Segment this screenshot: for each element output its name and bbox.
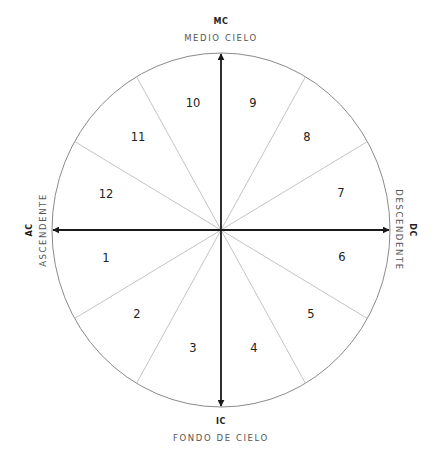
house-number-12: 12 bbox=[99, 187, 114, 201]
ic-abbr-label: IC bbox=[216, 417, 226, 426]
ac-abbr-label: AC bbox=[25, 223, 34, 236]
divider-line bbox=[137, 230, 222, 383]
divider-line bbox=[75, 142, 221, 231]
house-number-8: 8 bbox=[303, 130, 310, 144]
house-number-3: 3 bbox=[189, 341, 196, 355]
house-number-6: 6 bbox=[338, 250, 345, 264]
main-axes bbox=[53, 54, 389, 406]
divider-line bbox=[221, 230, 367, 319]
house-number-11: 11 bbox=[131, 130, 146, 144]
house-number-7: 7 bbox=[337, 186, 344, 200]
divider-line bbox=[221, 142, 367, 231]
house-numbers: 1 2 3 4 5 6 7 8 9 10 11 12 bbox=[99, 96, 346, 355]
divider-line bbox=[75, 230, 221, 319]
house-number-10: 10 bbox=[186, 96, 201, 110]
house-number-2: 2 bbox=[133, 307, 140, 321]
divider-line bbox=[221, 77, 306, 230]
house-number-5: 5 bbox=[307, 307, 314, 321]
house-number-1: 1 bbox=[102, 251, 109, 265]
mc-abbr-label: MC bbox=[214, 17, 229, 26]
house-number-9: 9 bbox=[249, 96, 256, 110]
divider-line bbox=[137, 77, 222, 230]
dc-name-label: DESCENDENTE bbox=[394, 189, 404, 270]
house-number-4: 4 bbox=[250, 341, 257, 355]
ac-name-label: ASCENDENTE bbox=[38, 193, 48, 267]
house-wheel-diagram: MC MEDIO CIELO IC FONDO DE CIELO AC ASCE… bbox=[0, 0, 443, 461]
dc-abbr-label: DC bbox=[408, 223, 417, 237]
mc-name-label: MEDIO CIELO bbox=[184, 33, 258, 43]
divider-line bbox=[221, 230, 306, 383]
ic-name-label: FONDO DE CIELO bbox=[173, 433, 269, 443]
